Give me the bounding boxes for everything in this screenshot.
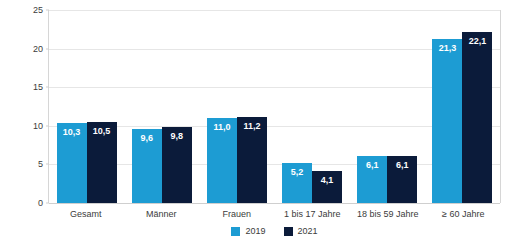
bar-group: 10,310,5 xyxy=(49,10,124,203)
legend-item-2021[interactable]: 2021 xyxy=(284,226,318,236)
legend-swatch-icon xyxy=(284,227,293,236)
bar-group: 11,011,2 xyxy=(199,10,274,203)
bar-2019[interactable]: 5,2 xyxy=(282,163,312,203)
bar-2021[interactable]: 22,1 xyxy=(462,32,492,203)
bar-2019[interactable]: 9,6 xyxy=(132,129,162,203)
y-tick-label: 15 xyxy=(33,82,43,92)
chart-legend: 20192021 xyxy=(48,224,501,238)
y-tick-label: 5 xyxy=(38,159,43,169)
x-axis-tick-label: 18 bis 59 Jahre xyxy=(350,206,426,222)
bar-value-label: 5,2 xyxy=(282,167,312,177)
bar-value-label: 11,0 xyxy=(207,122,237,132)
bar-2021[interactable]: 4,1 xyxy=(312,171,342,203)
gridline xyxy=(49,203,500,204)
legend-label: 2021 xyxy=(298,226,318,236)
legend-item-2019[interactable]: 2019 xyxy=(231,226,265,236)
bar-value-label: 6,1 xyxy=(387,160,417,170)
bar-group: 9,69,8 xyxy=(124,10,199,203)
x-axis-labels: GesamtMännerFrauen1 bis 17 Jahre18 bis 5… xyxy=(48,206,501,222)
bar-2021[interactable]: 9,8 xyxy=(162,127,192,203)
y-tick-label: 25 xyxy=(33,5,43,15)
x-axis-tick-label: Männer xyxy=(124,206,200,222)
bar-value-label: 10,3 xyxy=(57,127,87,137)
bar-groups: 10,310,59,69,811,011,25,24,16,16,121,322… xyxy=(49,10,500,203)
bar-group: 21,322,1 xyxy=(425,10,500,203)
bar-2021[interactable]: 10,5 xyxy=(87,122,117,203)
bar-value-label: 9,8 xyxy=(162,131,192,141)
bar-2019[interactable]: 6,1 xyxy=(357,156,387,203)
y-tick-label: 20 xyxy=(33,44,43,54)
legend-swatch-icon xyxy=(231,227,240,236)
bar-value-label: 9,6 xyxy=(132,133,162,143)
x-axis-tick-label: Gesamt xyxy=(48,206,124,222)
bar-value-label: 6,1 xyxy=(357,160,387,170)
x-axis-tick-label: 1 bis 17 Jahre xyxy=(275,206,351,222)
bar-chart: Anzahl Arzneiverordnungen je Einwohner 0… xyxy=(0,0,510,243)
y-tick-label: 10 xyxy=(33,121,43,131)
plot-area: 0510152025 10,310,59,69,811,011,25,24,16… xyxy=(48,10,501,203)
bar-value-label: 4,1 xyxy=(312,175,342,185)
x-axis-tick-label: ≥ 60 Jahre xyxy=(426,206,502,222)
bar-group: 6,16,1 xyxy=(350,10,425,203)
bar-value-label: 11,2 xyxy=(237,121,267,131)
bar-2021[interactable]: 11,2 xyxy=(237,117,267,203)
bar-value-label: 21,3 xyxy=(432,43,462,53)
legend-label: 2019 xyxy=(245,226,265,236)
bar-2019[interactable]: 21,3 xyxy=(432,39,462,203)
bar-2019[interactable]: 10,3 xyxy=(57,123,87,203)
x-axis-tick-label: Frauen xyxy=(199,206,275,222)
bar-2019[interactable]: 11,0 xyxy=(207,118,237,203)
bar-2021[interactable]: 6,1 xyxy=(387,156,417,203)
bar-value-label: 10,5 xyxy=(87,126,117,136)
y-tick-label: 0 xyxy=(38,198,43,208)
bar-value-label: 22,1 xyxy=(462,36,492,46)
bar-group: 5,24,1 xyxy=(275,10,350,203)
